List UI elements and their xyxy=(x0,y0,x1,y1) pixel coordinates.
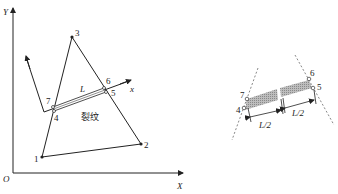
dim-tick-mid-a xyxy=(281,99,283,114)
crack-element-diagram: Y O X 1 2 3 x 7 4 6 5 L 裂纹 xyxy=(0,0,338,194)
node-5-label: 5 xyxy=(111,88,116,98)
node-2-label: 2 xyxy=(144,140,149,150)
node-5-label-r: 5 xyxy=(317,82,322,92)
node-2-dot xyxy=(139,142,142,145)
node-5-circle-r xyxy=(311,86,315,90)
node-3-label: 3 xyxy=(75,28,80,38)
dim-tick-mid-b xyxy=(283,98,285,113)
node-7-circle xyxy=(52,106,55,109)
crack-label: 裂纹 xyxy=(81,111,99,122)
node-7-label: 7 xyxy=(46,96,51,106)
left-figure: Y O X 1 2 3 x 7 4 6 5 L 裂纹 xyxy=(3,7,183,191)
node-7-label-r: 7 xyxy=(240,90,245,100)
node-7-circle-r xyxy=(245,97,249,101)
node-6-label: 6 xyxy=(106,76,111,86)
dim-tick-left xyxy=(248,108,251,122)
global-x-label: X xyxy=(176,181,183,191)
local-y-arrow xyxy=(26,56,30,69)
dim-arrow-right xyxy=(285,100,314,108)
right-figure: 7 4 6 5 L/2 L/2 xyxy=(232,55,334,140)
node-1-label: 1 xyxy=(34,154,39,164)
crack-half-right xyxy=(280,80,312,97)
dim-tick-right xyxy=(314,90,316,104)
dim-arrow-left xyxy=(250,110,281,117)
local-axes xyxy=(26,57,129,112)
node-1-dot xyxy=(40,155,43,158)
node-4-circle-r xyxy=(242,106,246,110)
node-5-circle xyxy=(105,91,108,94)
node-6-circle xyxy=(103,87,106,90)
node-3-dot xyxy=(70,35,73,38)
crack-half-left xyxy=(245,89,278,110)
local-x-label: x xyxy=(129,84,134,94)
global-y-label: Y xyxy=(3,7,9,17)
node-6-label-r: 6 xyxy=(310,68,315,78)
half-length-left-label: L/2 xyxy=(258,120,272,130)
half-length-right-label: L/2 xyxy=(291,108,305,118)
node-4-label-r: 4 xyxy=(236,105,241,115)
origin-label: O xyxy=(3,174,10,184)
crack-length-label: L xyxy=(79,84,85,94)
node-4-label: 4 xyxy=(54,113,59,123)
